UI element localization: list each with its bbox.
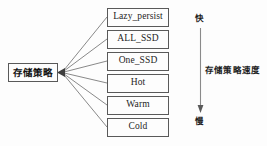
storage-policy-diagram: 存储策略 Lazy_persist ALL_SSD One_SSD Hot Wa… [0,0,267,146]
speed-axis-slow-label: 慢 [195,117,204,126]
edge-to-cold [62,73,107,128]
policy-node-lazy-persist[interactable]: Lazy_persist [107,8,169,27]
edge-to-all-ssd [62,39,107,73]
speed-axis-fast-label: 快 [195,14,204,23]
policy-node-hot[interactable]: Hot [107,74,169,93]
policy-node-warm[interactable]: Warm [107,96,169,115]
root-arrowhead [57,68,65,77]
policy-node-cold[interactable]: Cold [107,118,169,137]
policy-node-all-ssd[interactable]: ALL_SSD [107,30,169,49]
speed-axis-arrowhead [198,105,204,113]
edge-to-hot [62,73,107,84]
storage-policy-root-node[interactable]: 存储策略 [8,63,58,82]
edge-to-one-ssd [62,61,107,73]
edge-to-warm [62,73,107,106]
edge-to-lazy-persist [62,17,107,73]
speed-axis-title: 存储策略速度 [205,66,260,75]
policy-node-one-ssd[interactable]: One_SSD [107,52,169,71]
